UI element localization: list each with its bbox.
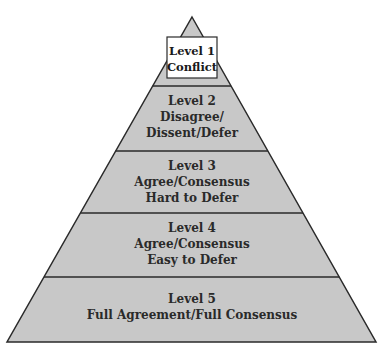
level-4-line-1: Level 4 xyxy=(168,221,216,235)
pyramid-diagram: Level 1 Conflict Level 2 Disagree/ Disse… xyxy=(0,0,385,352)
level-3-line-1: Level 3 xyxy=(168,159,216,173)
level-4-line-3: Easy to Defer xyxy=(147,253,237,267)
level-2-line-3: Dissent/Defer xyxy=(146,126,239,140)
level-5-line-2: Full Agreement/Full Consensus xyxy=(87,308,298,322)
level-1-line-2: Conflict xyxy=(167,60,218,74)
level-4-line-2: Agree/Consensus xyxy=(133,237,250,251)
level-1-line-1: Level 1 xyxy=(169,44,215,58)
level-2-line-2: Disagree/ xyxy=(160,110,224,124)
level-3-line-2: Agree/Consensus xyxy=(133,175,250,189)
level-3-line-3: Hard to Defer xyxy=(146,191,240,205)
level-2-line-1: Level 2 xyxy=(168,94,216,108)
level-5-line-1: Level 5 xyxy=(168,292,216,306)
